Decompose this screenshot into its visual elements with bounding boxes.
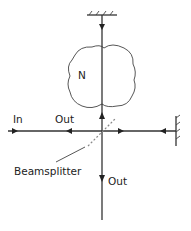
arrow-out-left-icon (66, 128, 72, 134)
interferometer-diagram: N Beamsplitter In Out Out (0, 0, 191, 231)
output-left-label: Out (55, 113, 74, 125)
arrow-down-top-icon (99, 24, 105, 30)
arrow-up-icon (99, 112, 105, 119)
arrow-return-left-icon (160, 128, 166, 134)
sample-label: N (78, 69, 86, 81)
arrow-in-icon (12, 128, 18, 134)
input-label: In (13, 113, 23, 125)
arrow-right-icon (118, 128, 124, 134)
arrow-out-down-icon (99, 175, 105, 182)
beamsplitter-label: Beamsplitter (14, 165, 82, 177)
output-bottom-label: Out (108, 175, 127, 187)
top-mirror (87, 11, 117, 15)
right-mirror (176, 115, 180, 146)
beamsplitter-leader (56, 147, 85, 162)
